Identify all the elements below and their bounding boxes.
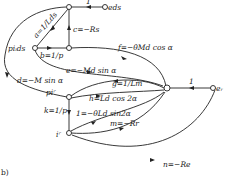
node-hub [164, 85, 170, 91]
label-b: b=1/p [40, 51, 63, 60]
figure-label: b) [1, 168, 9, 177]
label-one-r: 1 [189, 77, 194, 86]
label-one-top: 1 [86, 0, 91, 6]
node-p-ir [67, 95, 72, 100]
node-eds [103, 5, 108, 10]
label-m: m=−Rr [110, 119, 139, 128]
arrow-icon [189, 86, 194, 90]
arrow-icon [5, 72, 9, 78]
arrow-icon [67, 110, 71, 115]
label-eds: eds [108, 3, 121, 12]
arrow-icon [150, 158, 155, 162]
label-e: e=−Md sin α [66, 66, 116, 75]
arrow-icon [121, 56, 127, 60]
label-d: d=−M sin α [17, 76, 63, 85]
node-i-r [67, 131, 72, 136]
arrow-icon [47, 46, 52, 50]
label-k: k=1/p [44, 106, 67, 115]
node-mid [67, 46, 72, 51]
label-h: h=Ld cos 2α [89, 94, 137, 103]
signal-flow-graph: eds 1 piᵢds a=1/Lds b=1/p c=−Rs d=−M sin… [0, 0, 228, 177]
label-n: n=−Re [163, 160, 191, 169]
label-p-ir: piʳ [46, 88, 56, 97]
label-i-r: iʳ [56, 130, 61, 139]
node-e-r [211, 86, 216, 91]
node-top [67, 5, 72, 10]
label-f: f=−θ̇Md cos α [117, 43, 173, 52]
label-e-r: eᵣ [216, 84, 223, 93]
label-c: c=−Rs [73, 25, 99, 34]
label-p-ids: piᵢds [8, 44, 26, 53]
label-g: g=1/Lm [112, 79, 142, 88]
arrow-icon [67, 25, 71, 30]
node-p-ids [33, 46, 38, 51]
label-l: 1=−θ̇Ld sin2α [76, 109, 131, 118]
